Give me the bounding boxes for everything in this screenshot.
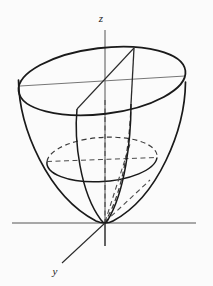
y-axis-label: y: [52, 265, 58, 277]
figure-canvas: z y: [0, 0, 213, 286]
z-axis-label: z: [98, 12, 104, 24]
paraboloid-figure: z y: [0, 0, 213, 286]
